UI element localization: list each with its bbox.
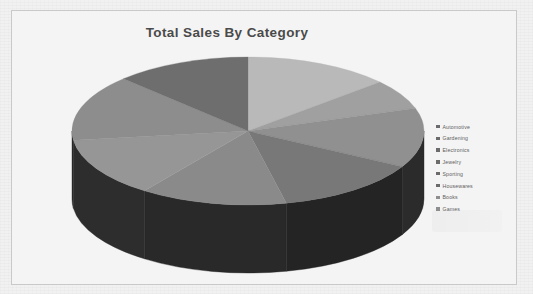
legend-item[interactable]: Electronics (436, 145, 516, 156)
legend-swatch-icon (436, 125, 440, 129)
legend-item-label: Sporting (443, 171, 464, 177)
legend-item[interactable]: Automotive (436, 121, 516, 132)
scan-artifact (432, 210, 502, 232)
chart-legend: AutomotiveGardeningElectronicsJewelrySpo… (436, 121, 516, 215)
legend-swatch-icon (436, 148, 440, 152)
legend-item[interactable]: Jewelry (436, 156, 516, 167)
legend-swatch-icon (436, 184, 440, 188)
legend-item-label: Electronics (443, 147, 470, 153)
legend-item-label: Housewares (443, 183, 473, 189)
chart-frame: Total Sales By Category AutomotiveGarden… (11, 10, 517, 285)
legend-item-label: Gardening (443, 135, 469, 141)
legend-item[interactable]: Books (436, 192, 516, 203)
legend-swatch-icon (436, 160, 440, 164)
pie-top-surface (72, 57, 424, 205)
pie-slice-side (72, 131, 73, 208)
legend-item[interactable]: Sporting (436, 168, 516, 179)
legend-item[interactable]: Gardening (436, 133, 516, 144)
legend-swatch-icon (436, 137, 440, 141)
legend-swatch-icon (436, 196, 440, 200)
legend-item-label: Books (443, 194, 458, 200)
legend-swatch-icon (436, 172, 440, 176)
legend-item[interactable]: Housewares (436, 180, 516, 191)
legend-item-label: Automotive (443, 124, 470, 130)
legend-item-label: Jewelry (443, 159, 462, 165)
